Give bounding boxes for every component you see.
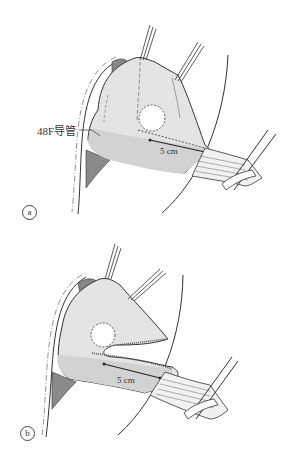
bougie-label: 48F导管 <box>37 122 76 138</box>
panel-label-a: a <box>22 205 37 220</box>
distance-label-a: 5 cm <box>160 146 178 156</box>
resection-circle <box>139 105 165 131</box>
stomach-illustration-b <box>0 227 299 454</box>
panel-a: 48F导管 5 cm a <box>0 0 299 227</box>
panel-label-b: b <box>20 426 35 441</box>
panel-b: 5 cm b <box>0 227 299 454</box>
distance-label-b: 5 cm <box>117 375 135 385</box>
stomach-illustration-a <box>0 0 299 227</box>
